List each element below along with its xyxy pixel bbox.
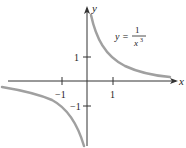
x-tick-label-neg1: −1 (55, 89, 66, 100)
annotation-numerator: 1 (135, 25, 140, 35)
chart: −1 1 1 −1 x y y = 1 x 3 (0, 0, 186, 148)
annotation-denominator: x (133, 38, 138, 48)
annotation-exponent: 3 (140, 37, 143, 43)
curve-negative-branch (2, 87, 84, 146)
curve-positive-branch (91, 15, 170, 77)
x-tick-label-1: 1 (110, 89, 115, 100)
function-annotation: y = 1 x 3 (114, 25, 146, 48)
y-axis-label: y (91, 2, 97, 14)
x-axis-label: x (178, 75, 184, 87)
y-tick-label-1: 1 (74, 52, 79, 63)
annotation-lhs: y = (114, 31, 129, 42)
y-tick-label-neg1: −1 (70, 101, 81, 112)
